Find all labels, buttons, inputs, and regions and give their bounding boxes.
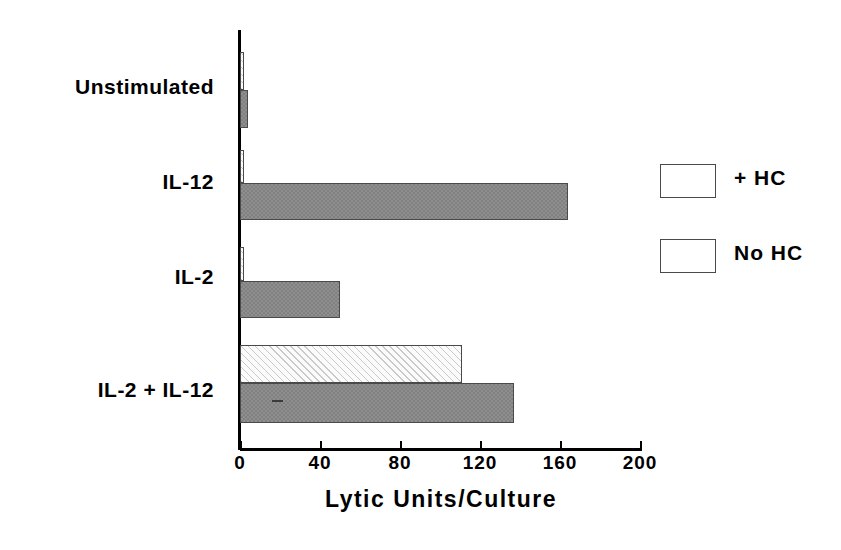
x-tick-label-120: 120	[450, 452, 510, 474]
legend-label-no-hc: No HC	[734, 241, 803, 265]
bar-il2-no-hc	[240, 281, 340, 318]
bar-il12-plus-hc	[240, 150, 244, 183]
x-axis-title: Lytic Units/Culture	[240, 486, 642, 513]
figure-bar-chart: 0 40 80 120 160 200 Unstimulated IL-12 I…	[0, 0, 841, 550]
legend: + HC No HC	[660, 160, 840, 310]
legend-item-no-hc: No HC	[660, 235, 840, 310]
x-tick-label-200: 200	[610, 452, 670, 474]
category-label-il12: IL-12	[0, 170, 228, 194]
category-label-unstimulated-wrap: Unstimulated	[0, 75, 228, 99]
x-tick-200	[640, 441, 642, 449]
x-tick-label-40: 40	[290, 452, 350, 474]
category-label-il2-wrap: IL-2	[0, 265, 228, 289]
legend-item-plus-hc: + HC	[660, 160, 840, 235]
bar-il2-il12-no-hc	[240, 383, 514, 423]
x-tick-label-160: 160	[530, 452, 590, 474]
bar-il12-no-hc	[240, 183, 568, 220]
legend-label-plus-hc: + HC	[734, 166, 786, 190]
bar-artifact-dash	[272, 400, 283, 402]
x-tick-label-0: 0	[210, 452, 270, 474]
x-tick-0	[240, 441, 242, 449]
category-label-il2-il12: IL-2 + IL-12	[0, 378, 228, 402]
category-label-il2: IL-2	[0, 265, 228, 289]
x-tick-160	[560, 441, 562, 449]
x-tick-label-80: 80	[370, 452, 430, 474]
category-label-il12-wrap: IL-12	[0, 170, 228, 194]
category-label-il2-il12-wrap: IL-2 + IL-12	[0, 378, 228, 402]
bar-unstimulated-plus-hc	[240, 52, 244, 90]
category-label-unstimulated: Unstimulated	[0, 75, 228, 99]
legend-swatch-plus-hc	[660, 164, 716, 198]
x-tick-120	[480, 441, 482, 449]
x-tick-80	[400, 441, 402, 449]
bar-unstimulated-no-hc	[240, 90, 248, 128]
bar-il2-plus-hc	[240, 247, 244, 281]
x-tick-40	[320, 441, 322, 449]
bar-il2-il12-plus-hc	[240, 345, 462, 383]
legend-swatch-no-hc	[660, 239, 716, 273]
x-axis-line	[240, 448, 642, 451]
